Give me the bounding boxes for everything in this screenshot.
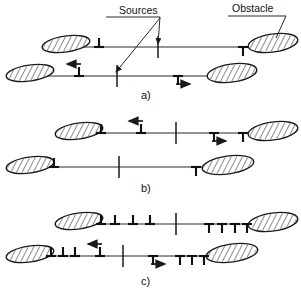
obstacle-left-group [54, 120, 104, 143]
obstacle-right-group [205, 240, 259, 265]
obstacle-left-group [5, 154, 55, 177]
obstacle-left-group [41, 33, 91, 56]
b-upper-slip-line [54, 119, 299, 144]
a-lower-slip-line [5, 61, 258, 87]
obstacle-left-group [54, 210, 104, 233]
obstacle-right-group [247, 210, 299, 235]
obstacle-right-group [247, 31, 299, 56]
panel-c [5, 210, 299, 267]
b-lower-slip-line [5, 152, 255, 178]
panel-b-label: b) [141, 182, 151, 194]
obstacle-label: Obstacle [232, 2, 274, 14]
diagram-content [5, 16, 299, 267]
panel-a [5, 31, 299, 87]
panel-b [5, 119, 299, 178]
a-upper-slip-line [41, 31, 299, 58]
obstacle-left-group [5, 243, 55, 266]
figure-root: Sources Obstacle a) b) c) [0, 0, 301, 291]
obstacle-right-group [206, 61, 258, 86]
c-upper-slip-line [54, 210, 299, 235]
sources-label: Sources [119, 4, 158, 16]
panel-c-label: c) [141, 275, 150, 287]
obstacle-right-group [247, 119, 299, 144]
sources-leader-upper [158, 17, 160, 44]
obstacle-right-group [201, 152, 255, 177]
c-lower-slip-line [5, 240, 259, 267]
obstacle-left-group [5, 62, 55, 85]
sources-leader-lower [116, 18, 160, 72]
panel-a-label: a) [141, 89, 151, 101]
dislocation-pileup-diagram: Sources Obstacle a) b) c) [0, 0, 301, 291]
